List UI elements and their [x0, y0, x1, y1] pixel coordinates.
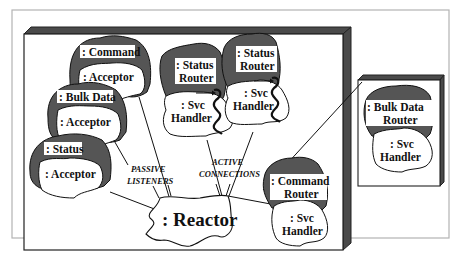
diagram-canvas: : Command : Acceptor : Bulk Data : Accep… [0, 0, 454, 272]
bulk-data-router[interactable]: : Bulk Data Router : Svc Handler [364, 85, 434, 172]
status-router-2-handler-line1: : Svc [244, 87, 268, 99]
command-acceptor-top-label: : Command [82, 46, 141, 58]
bulk-data-router-label-line1: : Bulk Data [367, 101, 424, 113]
command-router-handler-line2: Handler [282, 225, 323, 237]
active-connections-label-line2: CONNECTIONS [199, 169, 260, 179]
bulk-data-router-handler-line2: Handler [380, 151, 421, 163]
bulk-data-router-label-line2: Router [383, 114, 418, 126]
command-router-label-line1: : Command [271, 175, 330, 187]
status-router-2-handler-line2: Handler [233, 100, 274, 112]
status-router-1-label-line1: : Status [176, 59, 214, 71]
status-router-2-label-line1: : Status [237, 47, 275, 59]
status-router-2-label-line2: Router [240, 60, 275, 72]
status-router-1-handler-line2: Handler [171, 112, 212, 124]
bulk-data-acceptor-bottom-label: : Acceptor [60, 116, 111, 129]
status-router-1-handler-line1: : Svc [181, 99, 205, 111]
bulk-data-router-handler-line1: : Svc [390, 138, 414, 150]
active-connections-label-line1: ACTIVE [211, 157, 244, 167]
command-router-label-line2: Router [284, 188, 319, 200]
command-router-handler-line1: : Svc [290, 212, 314, 224]
passive-listeners-label-line1: PASSIVE [131, 164, 166, 174]
bulk-data-acceptor-top-label: : Bulk Data [59, 91, 116, 103]
status-acceptor-top-label: : Status [46, 143, 84, 155]
command-router[interactable]: : Command Router : Svc Handler [263, 157, 330, 246]
status-acceptor-bottom-label: : Acceptor [45, 168, 96, 181]
passive-listeners-label-line2: LISTENERS [126, 176, 174, 186]
status-router-1-label-line2: Router [179, 72, 214, 84]
reactor-label: : Reactor [162, 209, 238, 230]
